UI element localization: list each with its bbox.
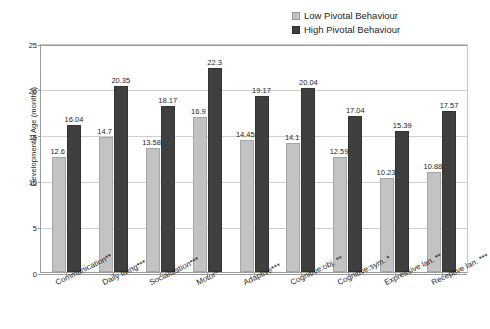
bar-value-label: 19.17: [252, 86, 271, 95]
bar-high[interactable]: 17.04: [348, 116, 362, 272]
legend-item-low[interactable]: Low Pivotal Behaviour: [292, 9, 472, 22]
bar-value-label: 15.39: [393, 121, 412, 130]
bar-value-label: 18.17: [158, 96, 177, 105]
bar-value-label: 14.45: [236, 130, 255, 139]
bar-value-label: 22.3: [207, 58, 222, 67]
y-tick-label: 0: [33, 270, 37, 279]
bar-group: 12.616.04: [43, 45, 90, 272]
bar-low[interactable]: 14.7: [99, 137, 113, 272]
bar-high[interactable]: 15.39: [395, 131, 409, 272]
bar-value-label: 13.58: [142, 138, 161, 147]
bar-high[interactable]: 19.17: [255, 96, 269, 272]
bar-high[interactable]: 22.3: [208, 68, 222, 272]
bar-group: 10.2315.39: [371, 45, 418, 272]
plot-area: 0510152025 12.616.0414.720.3513.5818.171…: [40, 44, 468, 273]
bar-groups: 12.616.0414.720.3513.5818.1716.922.314.4…: [41, 45, 467, 272]
bar-value-label: 16.04: [65, 115, 84, 124]
bar-value-label: 17.57: [440, 101, 459, 110]
legend-item-label: High Pivotal Behaviour: [304, 24, 400, 35]
bar-high[interactable]: 20.35: [114, 86, 128, 272]
bar-high[interactable]: 17.57: [442, 111, 456, 272]
y-tick-label: 20: [29, 86, 37, 95]
bar-value-label: 10.88: [423, 162, 442, 171]
bar-low[interactable]: 13.58: [146, 148, 160, 272]
bar-value-label: 20.35: [111, 76, 130, 85]
bar-value-label: 14.1: [285, 133, 300, 142]
bar-low[interactable]: 12.6: [52, 157, 66, 272]
legend-item-high[interactable]: High Pivotal Behaviour: [292, 23, 472, 36]
legend-swatch-icon: [292, 26, 300, 34]
bar-low[interactable]: 14.45: [240, 140, 254, 272]
bar-group: 13.5818.17: [137, 45, 184, 272]
y-tick-label: 25: [29, 41, 37, 50]
bar-high[interactable]: 18.17: [161, 106, 175, 272]
bar-value-label: 12.6: [50, 147, 65, 156]
bar-group: 14.4519.17: [231, 45, 278, 272]
bar-low[interactable]: 14.1: [286, 143, 300, 272]
bar-low[interactable]: 16.9: [193, 117, 207, 272]
chart-legend: Low Pivotal BehaviourHigh Pivotal Behavi…: [292, 9, 472, 37]
bar-group: 16.922.3: [184, 45, 231, 272]
legend-item-label: Low Pivotal Behaviour: [304, 10, 398, 21]
bar-group: 10.8817.57: [418, 45, 465, 272]
x-axis-labels: Communication**Daily living***Socializat…: [40, 273, 468, 329]
bar-value-label: 17.04: [346, 106, 365, 115]
y-tick-label: 5: [33, 224, 37, 233]
y-tick-label: 10: [29, 178, 37, 187]
bar-value-label: 14.7: [97, 127, 112, 136]
bar-value-label: 16.9: [191, 107, 206, 116]
bar-value-label: 20.04: [299, 78, 318, 87]
bar-high[interactable]: 16.04: [67, 125, 81, 272]
y-tick-label: 15: [29, 132, 37, 141]
bar-group: 14.120.04: [277, 45, 324, 272]
bar-high[interactable]: 20.04: [301, 88, 315, 272]
bar-group: 14.720.35: [90, 45, 137, 272]
bar-value-label: 10.23: [377, 168, 396, 177]
bar-value-label: 12.59: [330, 147, 349, 156]
bar-group: 12.5917.04: [324, 45, 371, 272]
legend-swatch-icon: [292, 12, 300, 20]
